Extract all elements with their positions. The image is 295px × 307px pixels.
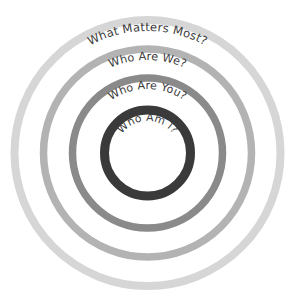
ring-third-circle xyxy=(73,78,223,228)
concentric-rings-diagram: What Matters Most? Who Are We? Who Are Y… xyxy=(0,0,295,307)
rings-canvas: What Matters Most? Who Are We? Who Are Y… xyxy=(0,0,295,307)
